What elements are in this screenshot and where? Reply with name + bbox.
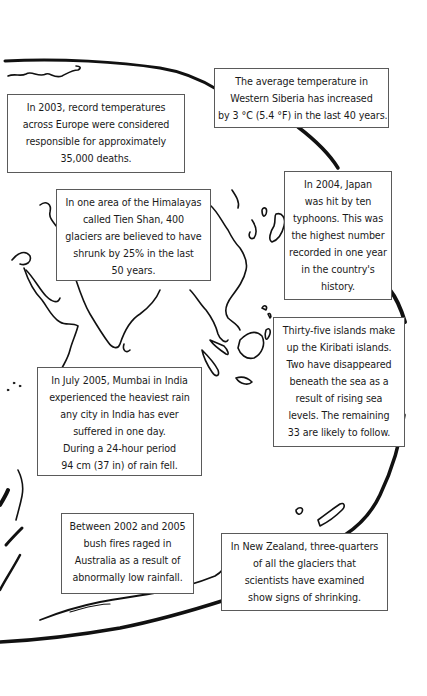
fact-line: the highest number (288, 227, 388, 244)
fact-line: In July 2005, Mumbai in India (41, 372, 198, 389)
indochina-coast (190, 290, 228, 342)
fact-line: 35,000 deaths. (11, 150, 181, 167)
globe-rim-right (298, 127, 338, 168)
fact-line: show signs of shrinking. (225, 589, 384, 606)
fact-line: result of rising sea (277, 390, 401, 407)
fact-line: Two have disappeared (277, 356, 401, 373)
fact-line: of all the glaciers that (225, 555, 384, 572)
fact-box-western-siberia: The average temperature in Western Siber… (214, 68, 389, 128)
fact-line: 94 cm (37 in) of rain fell. (41, 457, 198, 474)
fact-box-mumbai-2005: In July 2005, Mumbai in India experience… (37, 367, 202, 476)
fact-line: Australia as a result of (65, 552, 190, 569)
fact-line: responsible for approximately (11, 133, 181, 150)
fact-line: was hit by ten (288, 193, 388, 210)
fact-line: history. (288, 278, 388, 295)
fact-line: in the country's (288, 261, 388, 278)
sumatra (202, 350, 219, 376)
fact-line: In 2003, record temperatures (11, 99, 181, 116)
globe-rim-left (0, 555, 20, 590)
fact-line: In one area of the Himalayas (60, 194, 207, 211)
fact-box-japan-2004: In 2004, Japan was hit by ten typhoons. … (284, 171, 392, 300)
india-coast (76, 280, 160, 348)
fact-line: by 3 °C (5.4 °F) in the last 40 years. (218, 107, 385, 124)
fact-line: During a 24-hour period (41, 440, 198, 457)
fact-line: called Tien Shan, 400 (60, 211, 207, 228)
fact-line: beneath the sea as a (277, 373, 401, 390)
japan-islands (270, 214, 285, 242)
fact-line: experienced the heaviest rain (41, 389, 198, 406)
fact-line: Thirty-five islands make (277, 322, 401, 339)
fact-line: levels. The remaining (277, 407, 401, 424)
arctic-coast (8, 66, 80, 77)
globe-rim-bottom (0, 600, 225, 642)
fact-line: In New Zealand, three-quarters (225, 538, 384, 555)
fact-line: up the Kiribati islands. (277, 339, 401, 356)
fact-line: typhoons. This was (288, 210, 388, 227)
fact-line: suffered in one day. (41, 423, 198, 440)
fact-box-himalayas: In one area of the Himalayas called Tien… (56, 189, 211, 281)
new-zealand (318, 503, 344, 526)
fact-box-europe-2003: In 2003, record temperatures across Euro… (7, 94, 185, 173)
fact-line: shrunk by 25% in the last (60, 245, 207, 262)
fact-box-kiribati: Thirty-five islands make up the Kiribati… (273, 317, 405, 447)
borneo (238, 333, 264, 359)
fact-box-australia-bushfires: Between 2002 and 2005 bush fires raged i… (61, 513, 194, 594)
fact-line: glaciers are believed to have (60, 228, 207, 245)
fact-line: any city in India has ever (41, 406, 198, 423)
fact-line: across Europe were considered (11, 116, 181, 133)
fact-line: bush fires raged in (65, 535, 190, 552)
fact-line: The average temperature in (218, 73, 385, 90)
fact-line: Between 2002 and 2005 (65, 518, 190, 535)
fact-line: scientists have examined (225, 572, 384, 589)
fact-line: 33 are likely to follow. (277, 424, 401, 441)
fact-line: abnormally low rainfall. (65, 569, 190, 586)
fact-line: Western Siberia has increased (218, 90, 385, 107)
arabia-coast (24, 268, 78, 368)
china-coast (210, 205, 247, 330)
fact-line: recorded in one year (288, 244, 388, 261)
fact-box-new-zealand-glaciers: In New Zealand, three-quarters of all th… (221, 533, 388, 611)
fact-line: In 2004, Japan (288, 176, 388, 193)
fact-line: 50 years. (60, 262, 207, 279)
